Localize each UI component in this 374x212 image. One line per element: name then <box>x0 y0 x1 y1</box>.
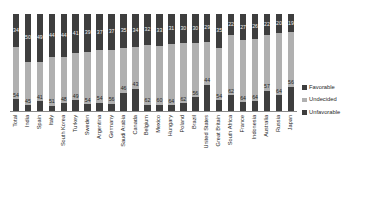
bar-stack[interactable]: 31646 <box>168 14 175 111</box>
bar-segment-undecided[interactable]: 46 <box>120 48 127 93</box>
legend-item-favorable[interactable]: Favorable <box>302 84 370 91</box>
bar-segment-favorable[interactable]: 25 <box>288 87 295 111</box>
bar-stack[interactable]: 294427 <box>204 14 211 111</box>
bar-segment-unfavorable[interactable]: 34 <box>132 14 139 47</box>
bar-segment-undecided[interactable]: 62 <box>228 35 235 95</box>
bar-segment-favorable[interactable]: 11 <box>216 100 223 111</box>
bar-segment-undecided[interactable]: 44 <box>204 42 211 85</box>
bar-segment-undecided[interactable]: 64 <box>276 33 283 95</box>
bar-segment-favorable[interactable]: 16 <box>276 95 283 111</box>
bar-segment-unfavorable[interactable]: 41 <box>72 14 79 53</box>
bar-segment-unfavorable[interactable]: 20 <box>276 14 283 33</box>
bar-stack[interactable]: 50456 <box>25 14 32 111</box>
bar-stack[interactable]: 355411 <box>216 14 223 111</box>
bar-segment-undecided[interactable]: 43 <box>132 47 139 89</box>
bar-stack[interactable]: 44488 <box>61 14 68 111</box>
bar-segment-favorable[interactable]: 7 <box>108 104 115 111</box>
bar-segment-undecided[interactable]: 60 <box>156 46 163 105</box>
bar-stack[interactable]: 225721 <box>264 14 271 111</box>
bar-segment-unfavorable[interactable]: 37 <box>108 14 115 50</box>
bar-segment-undecided[interactable]: 62 <box>180 43 187 103</box>
bar-segment-unfavorable[interactable]: 34 <box>13 14 20 47</box>
bar-segment-undecided[interactable]: 64 <box>168 44 175 105</box>
bar-segment-unfavorable[interactable]: 29 <box>204 14 211 42</box>
bar-stack[interactable]: 266410 <box>252 14 259 111</box>
bar-segment-favorable[interactable]: 14 <box>192 97 199 111</box>
bar-segment-undecided[interactable]: 54 <box>216 48 223 100</box>
bar-segment-unfavorable[interactable]: 30 <box>180 14 187 43</box>
bar-segment-favorable[interactable]: 11 <box>72 100 79 111</box>
bar-segment-favorable[interactable]: 8 <box>96 103 103 111</box>
bar-segment-favorable[interactable]: 9 <box>240 102 247 111</box>
bar-segment-unfavorable[interactable]: 35 <box>216 14 223 48</box>
bar-segment-favorable[interactable]: 10 <box>252 101 259 111</box>
bar-segment-unfavorable[interactable]: 33 <box>156 14 163 46</box>
segment-value-undecided: 56 <box>288 80 294 85</box>
bar-stack[interactable]: 27649 <box>240 14 247 111</box>
bar-stack[interactable]: 39547 <box>84 14 91 111</box>
bar-segment-unfavorable[interactable]: 22 <box>264 14 271 35</box>
segment-value-unfavorable: 49 <box>37 35 43 40</box>
bar-segment-favorable[interactable]: 27 <box>204 85 211 111</box>
bar-segment-favorable[interactable]: 8 <box>61 103 68 111</box>
bar-segment-favorable[interactable]: 12 <box>13 99 20 111</box>
segment-value-unfavorable: 26 <box>252 24 258 29</box>
bar-stack[interactable]: 44515 <box>49 14 56 111</box>
bar-segment-favorable[interactable]: 8 <box>180 103 187 111</box>
bar-segment-favorable[interactable]: 23 <box>132 89 139 111</box>
bar-segment-undecided[interactable]: 64 <box>252 39 259 101</box>
bar-segment-unfavorable[interactable]: 26 <box>252 14 259 39</box>
bar-stack[interactable]: 226216 <box>228 14 235 111</box>
bar-segment-undecided[interactable]: 41 <box>37 62 44 102</box>
bar-segment-unfavorable[interactable]: 37 <box>96 14 103 50</box>
bar-segment-undecided[interactable]: 49 <box>72 53 79 100</box>
bar-segment-favorable[interactable]: 16 <box>228 95 235 111</box>
bar-segment-undecided[interactable]: 54 <box>84 52 91 104</box>
x-tick-label: South Korea <box>61 115 67 146</box>
bar-segment-unfavorable[interactable]: 27 <box>240 14 247 40</box>
bar-segment-unfavorable[interactable]: 32 <box>144 14 151 45</box>
bar-segment-undecided[interactable]: 54 <box>13 47 20 99</box>
legend-item-unfavorable[interactable]: Unfavorable <box>302 109 370 116</box>
bar-stack[interactable]: 305614 <box>192 14 199 111</box>
bar-segment-unfavorable[interactable]: 22 <box>228 14 235 35</box>
bar-segment-unfavorable[interactable]: 39 <box>84 14 91 52</box>
bar-segment-unfavorable[interactable]: 31 <box>168 14 175 44</box>
bar-segment-undecided[interactable]: 48 <box>61 57 68 104</box>
bar-stack[interactable]: 32626 <box>144 14 151 111</box>
bar-segment-undecided[interactable]: 51 <box>49 57 56 106</box>
bar-stack[interactable]: 30628 <box>180 14 187 111</box>
bar-stack[interactable]: 344323 <box>132 14 139 111</box>
bar-stack[interactable]: 206416 <box>276 14 283 111</box>
bar-stack[interactable]: 37567 <box>108 14 115 111</box>
bar-segment-undecided[interactable]: 62 <box>144 45 151 105</box>
bar-segment-undecided[interactable]: 57 <box>264 35 271 90</box>
bar-segment-undecided[interactable]: 56 <box>108 50 115 104</box>
segment-value-unfavorable: 37 <box>109 29 115 34</box>
bar-segment-unfavorable[interactable]: 49 <box>37 14 44 62</box>
bar-segment-undecided[interactable]: 64 <box>240 40 247 102</box>
bar-segment-favorable[interactable]: 10 <box>37 101 44 111</box>
bar-stack[interactable]: 33606 <box>156 14 163 111</box>
bar-segment-undecided[interactable]: 56 <box>288 32 295 86</box>
bar-segment-unfavorable[interactable]: 35 <box>120 14 127 48</box>
bar-segment-unfavorable[interactable]: 50 <box>25 14 32 62</box>
bar-segment-undecided[interactable]: 56 <box>192 43 199 97</box>
x-tick-mexico: Mexico <box>153 113 165 175</box>
bar-stack[interactable]: 494110 <box>37 14 44 111</box>
bar-stack[interactable]: 195625 <box>288 14 295 111</box>
bar-segment-favorable[interactable]: 21 <box>264 91 271 111</box>
bar-segment-favorable[interactable]: 19 <box>120 93 127 111</box>
bar-segment-undecided[interactable]: 45 <box>25 62 32 105</box>
bar-segment-undecided[interactable]: 54 <box>96 50 103 103</box>
bar-segment-unfavorable[interactable]: 30 <box>192 14 199 43</box>
bar-segment-favorable[interactable]: 7 <box>84 104 91 111</box>
bar-stack[interactable]: 37548 <box>96 14 103 111</box>
bar-segment-unfavorable[interactable]: 44 <box>49 14 56 57</box>
bar-segment-unfavorable[interactable]: 19 <box>288 14 295 32</box>
bar-stack[interactable]: 414911 <box>72 14 79 111</box>
legend-item-undecided[interactable]: Undecided <box>302 97 370 104</box>
bar-stack[interactable]: 354619 <box>120 14 127 111</box>
bar-segment-unfavorable[interactable]: 44 <box>61 14 68 57</box>
bar-stack[interactable]: 345412 <box>13 14 20 111</box>
